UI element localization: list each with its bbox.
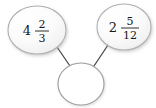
addend-right-whole: 2: [109, 20, 117, 35]
connector-right-line: [94, 45, 108, 66]
addend-left-whole: 4: [23, 23, 31, 38]
addend-left-numerator: 2: [39, 18, 46, 31]
connector-left-line: [57, 47, 70, 66]
sum-node-empty[interactable]: [58, 63, 104, 105]
addend-right-denominator: 12: [123, 29, 137, 42]
addend-right-circle[interactable]: [97, 4, 151, 50]
sum-node-circle[interactable]: [58, 63, 104, 105]
addend-left-circle[interactable]: [8, 6, 66, 54]
number-bond-diagram: 4 2 3 2 5 12: [0, 0, 156, 108]
addend-left-node[interactable]: 4 2 3: [8, 6, 66, 54]
number-bond-canvas: 4 2 3 2 5 12: [0, 0, 156, 108]
addend-right-node[interactable]: 2 5 12: [97, 4, 151, 50]
addend-left-denominator: 3: [39, 32, 46, 45]
addend-right-numerator: 5: [127, 15, 134, 28]
